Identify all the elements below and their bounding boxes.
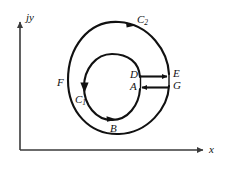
contour-label-c1: C1 [75, 94, 86, 105]
contour-label-c2: C2 [137, 14, 148, 25]
outer-contour-c2 [68, 22, 169, 134]
contour-label-c1-sub: 1 [82, 98, 86, 107]
contour-figure: jy x C2 C1 F B D E A G [0, 0, 227, 169]
point-label-f: F [57, 77, 64, 88]
point-label-b: B [110, 123, 117, 134]
contour-label-c2-sub: 2 [144, 18, 148, 27]
point-label-d: D [130, 69, 138, 80]
y-axis-label: jy [26, 12, 34, 23]
x-axis-label: x [209, 144, 214, 155]
point-label-e: E [173, 68, 180, 79]
point-label-g: G [173, 80, 181, 91]
bridge-segments [140, 74, 169, 89]
inner-left-arrow-icon [80, 83, 88, 94]
figure-canvas [0, 0, 227, 169]
outer-contour-path [68, 22, 169, 134]
point-label-a: A [130, 81, 137, 92]
